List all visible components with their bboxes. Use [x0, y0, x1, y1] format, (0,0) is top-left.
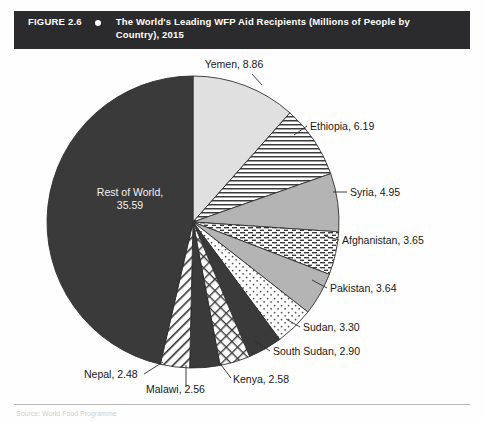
- pie-label-south-sudan: South Sudan, 2.90: [273, 345, 360, 357]
- pie-label-rest-of-world-value: 35.59: [117, 199, 143, 211]
- pie-label-yemen: Yemen, 8.86: [205, 58, 264, 70]
- pie-label-ethiopia: Ethiopia, 6.19: [310, 120, 374, 132]
- pie-label-kenya: Kenya, 2.58: [233, 373, 289, 385]
- bullet-dot-icon: [95, 20, 101, 26]
- pie-label-malawi: Malawi, 2.56: [146, 383, 205, 395]
- figure-container: FIGURE 2.6 The World's Leading WFP Aid R…: [0, 0, 484, 422]
- pie-label-afghanistan: Afghanistan, 3.65: [342, 234, 424, 246]
- pie-label-syria: Syria, 4.95: [350, 186, 400, 198]
- figure-header-bar: FIGURE 2.6 The World's Leading WFP Aid R…: [14, 11, 470, 49]
- leader-line-yemen: [252, 74, 262, 85]
- figure-title: The World's Leading WFP Aid Recipients (…: [116, 16, 446, 41]
- figure-number: FIGURE 2.6: [28, 16, 82, 29]
- pie-chart: Yemen, 8.86Ethiopia, 6.19Syria, 4.95Afgh…: [0, 52, 484, 397]
- pie-label-nepal: Nepal, 2.48: [84, 368, 138, 380]
- source-note: Source: World Food Programme: [16, 409, 468, 418]
- figure-header-line: FIGURE 2.6 The World's Leading WFP Aid R…: [28, 16, 460, 41]
- pie-label-pakistan: Pakistan, 3.64: [330, 282, 397, 294]
- pie-label-sudan: Sudan, 3.30: [303, 321, 360, 333]
- footer-divider: [14, 404, 470, 405]
- pie-chart-svg: Yemen, 8.86Ethiopia, 6.19Syria, 4.95Afgh…: [0, 52, 484, 397]
- leader-line-nepal: [144, 362, 163, 374]
